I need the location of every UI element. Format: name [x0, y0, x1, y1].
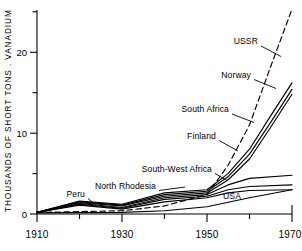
series-label-norway: Norway	[221, 70, 251, 80]
x-tick-label-1910: 1910	[25, 229, 48, 240]
series-label-finland: Finland	[187, 131, 216, 141]
x-tick-label-1930: 1930	[110, 229, 133, 240]
leader-finland	[219, 141, 238, 152]
vanadium-production-chart: THOUSANDS OF SHORT TONS . VANADIUM 20 10…	[0, 0, 302, 251]
series-label-south-west-africa: South-West Africa	[142, 164, 212, 174]
x-tick-label-1950: 1950	[195, 229, 218, 240]
leader-north-rhodesia	[159, 187, 185, 191]
series-label-usa: USA	[223, 191, 241, 201]
series-label-north-rhodesia: North Rhodesia	[95, 181, 156, 191]
series-label-south-africa: South Africa	[181, 104, 229, 114]
leader-south-africa	[232, 114, 254, 123]
series-label-ussr: USSR	[234, 36, 258, 46]
y-axis-title: THOUSANDS OF SHORT TONS . VANADIUM	[3, 9, 13, 212]
y-tick-label-0: 0	[22, 209, 27, 220]
y-tick-label-20: 20	[16, 47, 27, 58]
x-tick-label-1970: 1970	[278, 229, 301, 240]
y-tick-label-10: 10	[16, 128, 27, 139]
chart-svg: THOUSANDS OF SHORT TONS . VANADIUM 20 10…	[0, 0, 302, 251]
series-label-peru: Peru	[66, 189, 85, 199]
